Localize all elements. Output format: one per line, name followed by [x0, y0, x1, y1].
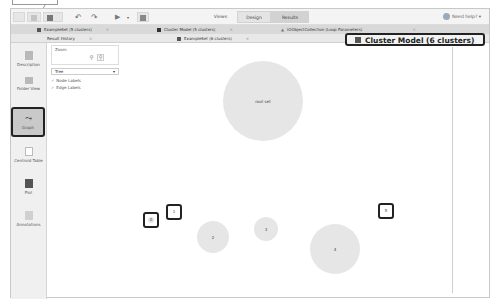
sidebar-item-graph[interactable]: ⤳Graph	[11, 107, 45, 137]
node-labels-checkbox[interactable]: ✓Node Labels	[51, 78, 121, 84]
tab-cluster-model-6-active[interactable]: Cluster Model (6 clusters)	[345, 33, 485, 46]
close-icon[interactable]: ×	[89, 36, 92, 41]
zoom-label: Zoom	[55, 47, 67, 52]
save-icon	[47, 15, 53, 21]
zoom-in-button[interactable]: ⚲	[88, 54, 95, 61]
open-button[interactable]	[27, 12, 41, 22]
undo-button[interactable]: ↶	[71, 12, 85, 22]
cluster-node-0[interactable]: 0	[143, 212, 159, 228]
cluster-node-2[interactable]: 2	[197, 221, 229, 253]
main-toolbar: ↶ ↷ ▶▾ Views: Design Results Need help? …	[11, 9, 489, 25]
stop-icon	[140, 15, 146, 21]
description-icon	[25, 51, 33, 60]
folder-icon	[25, 77, 33, 84]
tab-design[interactable]: Design	[237, 11, 271, 23]
play-icon: ▶	[115, 13, 120, 22]
graph-icon: ⤳	[24, 114, 32, 123]
redo-icon: ↷	[91, 13, 98, 22]
sidebar-item-folder-view[interactable]: Folder View	[12, 77, 45, 91]
new-process-button[interactable]	[13, 12, 25, 22]
tooltip-callout	[12, 0, 58, 5]
run-button[interactable]: ▶▾	[111, 12, 133, 22]
help-icon	[443, 13, 450, 20]
model-icon	[157, 28, 161, 32]
tab-cluster-model-5[interactable]: Cluster Model (5 clusters)×	[157, 25, 233, 34]
plot-icon	[25, 179, 33, 188]
zoom-out-button[interactable]: ⚲	[97, 54, 104, 61]
close-icon[interactable]: ×	[106, 27, 109, 32]
close-icon[interactable]: ×	[412, 27, 415, 32]
warning-icon: ▲	[281, 27, 284, 32]
close-icon[interactable]: ×	[246, 36, 249, 41]
folder-icon	[31, 15, 37, 21]
tab-exampleset-6[interactable]: ExampleSet (6 clusters)×	[177, 34, 249, 43]
cluster-node-4[interactable]: 4	[310, 224, 360, 274]
cluster-node-5[interactable]: 5	[378, 203, 394, 219]
checkmark-icon: ✓	[51, 85, 54, 91]
view-sidebar: Description Folder View ⤳Graph Centroid …	[11, 43, 47, 299]
layout-select[interactable]: Tree▾	[51, 68, 119, 75]
tab-result-history[interactable]: Result History×	[47, 34, 92, 43]
dropdown-icon: ▾	[127, 13, 129, 22]
edge-labels-checkbox[interactable]: ✓Edge Labels	[51, 85, 121, 91]
panel-divider[interactable]	[452, 47, 453, 293]
zoom-in-icon: ⚲	[90, 54, 94, 60]
sidebar-item-centroid-table[interactable]: Centroid Table	[12, 147, 45, 163]
zoom-group: Zoom ⚲ ⚲	[51, 45, 119, 65]
tab-exampleset-5[interactable]: ExampleSet (5 clusters)×	[37, 25, 109, 34]
sidebar-item-annotations[interactable]: Annotations	[12, 211, 45, 227]
redo-button[interactable]: ↷	[87, 12, 101, 22]
zoom-out-icon: ⚲	[99, 54, 103, 60]
stop-button[interactable]	[137, 12, 149, 22]
root-node[interactable]: root set	[223, 61, 303, 141]
chevron-down-icon: ▾	[113, 69, 115, 74]
table-icon	[177, 37, 181, 41]
sidebar-item-description[interactable]: Description	[12, 51, 45, 67]
views-label: Views:	[211, 12, 231, 22]
app-window: ↶ ↷ ▶▾ Views: Design Results Need help? …	[10, 8, 490, 298]
close-icon[interactable]: ×	[229, 27, 232, 32]
save-button[interactable]	[43, 12, 63, 22]
model-icon	[355, 37, 361, 43]
cluster-node-3[interactable]: 3	[254, 217, 278, 241]
undo-icon: ↶	[75, 13, 82, 22]
cluster-node-1[interactable]: 1	[166, 204, 182, 220]
graph-options-panel: Zoom ⚲ ⚲ Tree▾ ✓Node Labels ✓Edge Labels	[51, 45, 121, 91]
checkmark-icon: ✓	[51, 78, 54, 84]
help-button[interactable]: Need help? ▾	[443, 12, 481, 22]
tab-results[interactable]: Results	[271, 11, 309, 23]
table-icon	[37, 28, 41, 32]
annotations-icon	[25, 211, 33, 220]
table-icon	[25, 147, 33, 156]
sidebar-item-plot[interactable]: Plot	[12, 179, 45, 195]
